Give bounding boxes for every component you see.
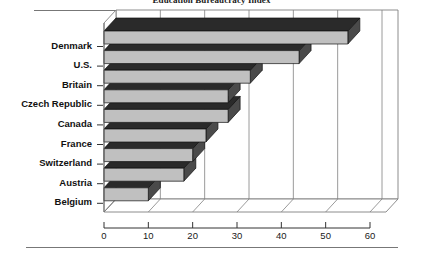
value-tick-label-0: 0 <box>91 230 117 241</box>
value-tick-label-30: 30 <box>224 230 250 241</box>
chart-figure: Education Bureaucracy Index DenmarkU.S.B… <box>0 0 423 255</box>
value-tick-label-60: 60 <box>357 230 383 241</box>
value-axis-labels: 0102030405060 <box>0 0 423 255</box>
value-tick-label-20: 20 <box>180 230 206 241</box>
value-tick-label-50: 50 <box>313 230 339 241</box>
value-tick-label-10: 10 <box>135 230 161 241</box>
value-tick-label-40: 40 <box>268 230 294 241</box>
